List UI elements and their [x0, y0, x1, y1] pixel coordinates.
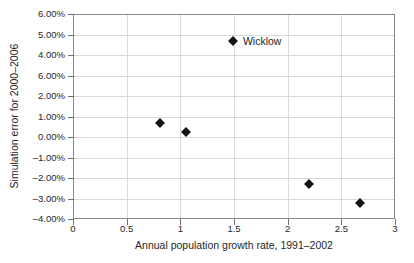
y-tick-mark [68, 35, 74, 36]
y-tick-mark [68, 137, 74, 138]
y-tick-label: 5.00% [0, 29, 65, 41]
x-tick-label: 0 [58, 223, 88, 235]
scatter-chart-figure: Annual population growth rate, 1991–2002… [0, 0, 414, 263]
y-tick-label: –2.00% [0, 172, 65, 184]
y-tick-label: 2.00% [0, 90, 65, 102]
x-tick-label: 3 [380, 223, 410, 235]
y-tick-mark [68, 96, 74, 97]
data-point-label: Wicklow [243, 34, 282, 48]
y-tick-label: 4.00% [0, 49, 65, 61]
y-tick-mark [68, 158, 74, 159]
y-tick-label: 6.00% [0, 70, 65, 82]
y-tick-mark [68, 14, 74, 15]
x-axis-title: Annual population growth rate, 1991–2002 [73, 239, 395, 251]
x-tick-label: 1 [165, 223, 195, 235]
vertical-gridline [234, 15, 235, 218]
y-tick-label: –3.00% [0, 193, 65, 205]
x-tick-label: 0.5 [112, 223, 142, 235]
y-tick-label: –4.00% [0, 213, 65, 225]
x-tick-label: 2 [273, 223, 303, 235]
y-tick-mark [68, 117, 74, 118]
y-tick-mark [68, 199, 74, 200]
vertical-gridline [341, 15, 342, 218]
x-tick-label: 1.5 [219, 223, 249, 235]
y-tick-mark [68, 55, 74, 56]
y-tick-label: 6.00% [0, 8, 65, 20]
vertical-gridline [180, 15, 181, 218]
y-tick-label: 0.00% [0, 131, 65, 143]
y-tick-mark [68, 178, 74, 179]
y-tick-mark [68, 76, 74, 77]
y-tick-label: 1.00% [0, 111, 65, 123]
x-tick-label: 2.5 [326, 223, 356, 235]
vertical-gridline [288, 15, 289, 218]
vertical-gridline [127, 15, 128, 218]
y-tick-label: –1.00% [0, 152, 65, 164]
